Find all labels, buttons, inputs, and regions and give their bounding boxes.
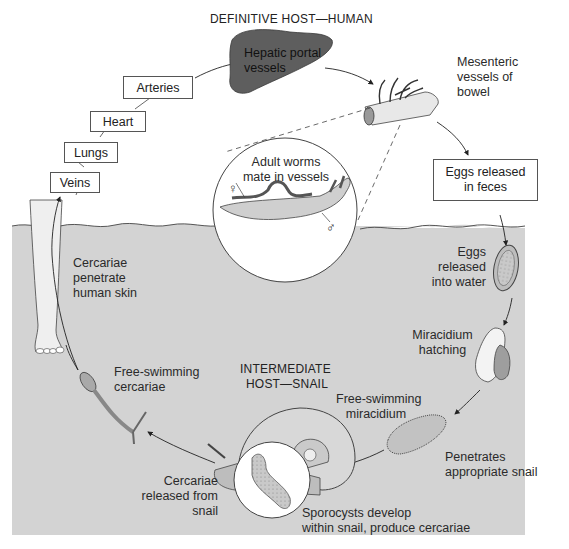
sporocysts-label: Sporocysts develop within snail, produce… (302, 506, 470, 536)
lungs-box: Lungs (64, 142, 118, 163)
mesenteric-vessels-label: Mesenteric vessels of bowel (457, 55, 518, 100)
male-symbol: ♂ (326, 220, 336, 235)
free-swimming-miracidium-label: Free-swimming miracidium (336, 392, 416, 422)
eggs-into-water-label: Eggs released into water (430, 245, 486, 290)
hepatic-portal-label: Hepatic portal vessels (244, 46, 321, 76)
heart-box: Heart (90, 111, 146, 132)
intermediate-host-title: INTERMEDIATE HOST—SNAIL (240, 362, 328, 392)
veins-box: Veins (50, 172, 100, 193)
free-swimming-cercariae-label: Free-swimming cercariae (114, 365, 199, 395)
eggs-in-feces-box: Eggs released in feces (433, 159, 538, 201)
female-symbol: ♀ (228, 181, 238, 196)
arteries-box: Arteries (123, 76, 193, 99)
cercariae-released-label: Cercariae released from snail (130, 474, 218, 519)
miracidium-hatching-label: Miracidium hatching (405, 328, 480, 358)
penetrates-snail-label: Penetrates appropriate snail (445, 450, 537, 480)
penetrate-skin-label: Cercariae penetrate human skin (73, 256, 137, 301)
definitive-host-title: DEFINITIVE HOST—HUMAN (210, 12, 373, 26)
schistosoma-life-cycle-diagram: DEFINITIVE HOST—HUMAN Arteries Heart Lun… (0, 0, 569, 549)
adult-worms-label: Adult worms mate in vessels (240, 155, 332, 185)
mesenteric-vessels-illustration (364, 78, 438, 125)
